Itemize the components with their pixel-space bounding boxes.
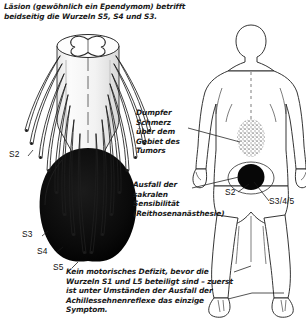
medical-illustration-page: Läsion (gewöhnlich ein Ependymom) betrif… [0, 0, 306, 328]
tumor-pain-region [237, 119, 265, 157]
root-label-s4-left: S4 [37, 246, 48, 256]
root-label-s2-right: S2 [225, 187, 236, 197]
label-sensory-loss: Ausfall der sakralen Sensibilität (Reith… [133, 180, 191, 218]
root-label-s3-left: S3 [22, 229, 33, 239]
root-label-s2-left: S2 [9, 149, 20, 159]
root-label-s5-left: S5 [53, 262, 64, 272]
root-label-s345-right: S3/4/5 [269, 196, 294, 206]
ependymoma-mass [40, 148, 137, 262]
caption-bottom: Kein motorisches Defizit, bevor die Wurz… [66, 267, 236, 315]
label-dull-pain: Dumpfer Schmerz über dem Gebiet des Tumo… [136, 108, 188, 156]
